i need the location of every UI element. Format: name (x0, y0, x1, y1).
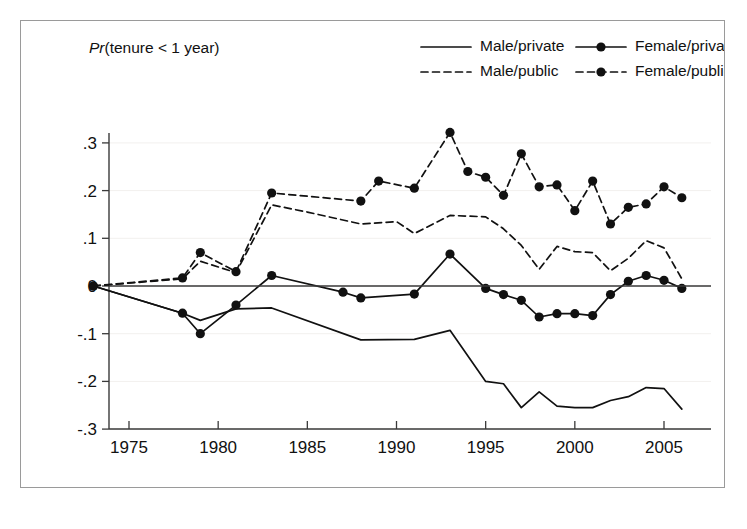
legend-item-female-public: Female/public (576, 62, 724, 79)
data-point (642, 199, 651, 208)
data-point (267, 188, 276, 197)
legend-label: Male/private (480, 37, 564, 54)
line-chart: .3.2.10-.1-.2-.3 19751980198519901995200… (21, 21, 724, 487)
data-point (481, 173, 490, 182)
chart-title-text: Pr(tenure < 1 year) (89, 39, 220, 56)
figure-frame: .3.2.10-.1-.2-.3 19751980198519901995200… (20, 20, 725, 488)
data-point (231, 267, 240, 276)
legend-marker-icon (596, 42, 605, 51)
x-tick-label: 1985 (288, 438, 326, 457)
data-point (89, 281, 98, 290)
y-tick-label: .2 (83, 182, 97, 201)
data-point (445, 249, 454, 258)
data-point (374, 176, 383, 185)
data-point (624, 277, 633, 286)
chart-title: Pr(tenure < 1 year) (89, 39, 220, 56)
data-point (659, 182, 668, 191)
x-axis-tick-labels: 1975198019851990199520002005 (110, 438, 683, 457)
axes (102, 133, 711, 429)
y-tick-label: -.2 (77, 372, 97, 391)
data-point (267, 271, 276, 280)
data-point (410, 184, 419, 193)
data-point (231, 300, 240, 309)
data-point (588, 311, 597, 320)
data-point (535, 312, 544, 321)
data-point (677, 284, 686, 293)
legend-item-male-private: Male/private (421, 37, 564, 54)
data-point (552, 309, 561, 318)
data-point (677, 193, 686, 202)
x-tick-label: 2005 (645, 438, 683, 457)
data-point (356, 196, 365, 205)
data-point (499, 191, 508, 200)
data-point (606, 219, 615, 228)
y-tick-label: .3 (83, 134, 97, 153)
data-point (659, 276, 668, 285)
data-point (196, 329, 205, 338)
x-tick-label: 2000 (556, 438, 594, 457)
data-series-layer (89, 128, 687, 409)
data-point (445, 128, 454, 137)
data-point (356, 293, 365, 302)
legend-marker-icon (596, 67, 605, 76)
legend-item-male-public: Male/public (421, 62, 559, 79)
data-point (606, 290, 615, 299)
series-line-female-private (93, 254, 682, 334)
x-tick-label: 1980 (199, 438, 237, 457)
legend-item-female-private: Female/private (576, 37, 724, 54)
series-line-male-private (93, 286, 682, 409)
y-tick-label: -.3 (77, 420, 97, 439)
data-point (624, 203, 633, 212)
data-point (410, 290, 419, 299)
x-tick-label: 1975 (110, 438, 148, 457)
data-point (196, 248, 205, 257)
x-tick-label: 1995 (467, 438, 505, 457)
legend-label: Female/public (635, 62, 724, 79)
data-point (588, 176, 597, 185)
data-point (338, 288, 347, 297)
legend-label: Female/private (635, 37, 724, 54)
data-point (517, 296, 526, 305)
y-tick-label: .1 (83, 229, 97, 248)
data-point (570, 309, 579, 318)
data-point (178, 273, 187, 282)
data-point (570, 206, 579, 215)
data-point (642, 271, 651, 280)
data-point (481, 284, 490, 293)
figure-root: .3.2.10-.1-.2-.3 19751980198519901995200… (0, 0, 747, 529)
y-tick-label: -.1 (77, 325, 97, 344)
x-tick-label: 1990 (378, 438, 416, 457)
legend-label: Male/public (480, 62, 559, 79)
legend: Male/privateFemale/privateMale/publicFem… (421, 37, 724, 79)
data-point (552, 180, 561, 189)
series-line-female-public (93, 132, 682, 286)
data-point (535, 182, 544, 191)
data-point (517, 149, 526, 158)
data-point (499, 290, 508, 299)
data-point (178, 309, 187, 318)
data-point (463, 167, 472, 176)
